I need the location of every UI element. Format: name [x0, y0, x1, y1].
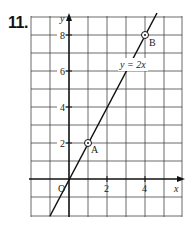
x-tick-label-4: 4: [142, 183, 147, 194]
y-tick-label-6: 6: [60, 66, 65, 77]
y-tick-label-2: 2: [60, 138, 65, 149]
point-a-label: A: [91, 144, 99, 155]
coordinate-graph: 8 6 4 2 2 4 y x O A B y = 2x: [0, 0, 191, 225]
y-axis-label: y: [59, 13, 65, 24]
origin-label: O: [58, 183, 65, 194]
y-tick-label-8: 8: [60, 30, 65, 41]
point-b: [142, 32, 149, 39]
x-axis-label: x: [173, 183, 179, 194]
x-tick-label-2: 2: [104, 183, 109, 194]
equation-label: y = 2x: [119, 59, 146, 70]
y-tick-label-4: 4: [60, 102, 65, 113]
x-axis-arrow-icon: [177, 176, 185, 182]
point-b-label: B: [149, 37, 156, 48]
